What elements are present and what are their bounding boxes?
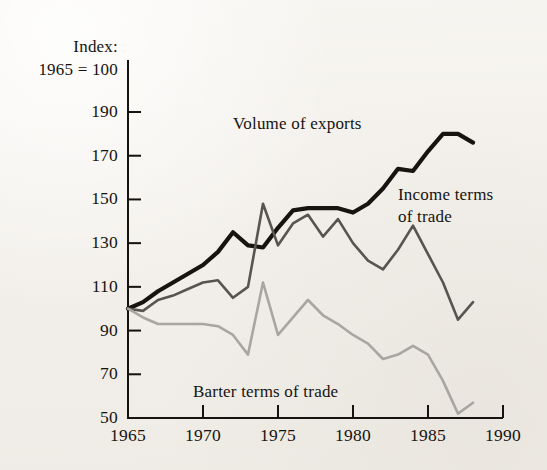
x-tick-label: 1970 xyxy=(170,425,236,446)
y-tick-label: 170 xyxy=(60,145,118,166)
x-tick-label: 1975 xyxy=(245,425,311,446)
x-tick-label: 1990 xyxy=(470,425,536,446)
figure-container: Index: 1965 = 100 507090110130150170190 … xyxy=(0,0,547,470)
axis-ticks xyxy=(128,112,503,418)
series-label-3: Barter terms of trade xyxy=(193,381,338,403)
series-label-2: Income terms of trade xyxy=(398,184,493,228)
y-axis-caption: Index: 1965 = 100 xyxy=(20,36,118,81)
x-tick-label: 1965 xyxy=(95,425,161,446)
y-tick-label: 130 xyxy=(60,232,118,253)
data-series-group xyxy=(128,134,473,414)
y-tick-label: 90 xyxy=(60,320,118,341)
y-tick-label: 110 xyxy=(60,276,118,297)
y-tick-label: 70 xyxy=(60,363,118,384)
x-tick-label: 1985 xyxy=(395,425,461,446)
y-tick-label: 190 xyxy=(60,101,118,122)
x-tick-label: 1980 xyxy=(320,425,386,446)
y-tick-label: 150 xyxy=(60,188,118,209)
series-label-1: Volume of exports xyxy=(233,113,362,135)
